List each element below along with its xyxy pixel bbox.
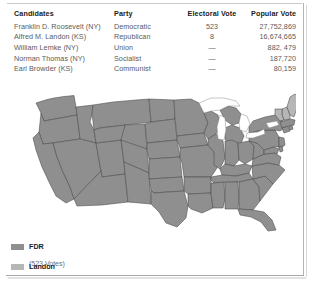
- cell-candidate: Earl Browder (KS): [14, 64, 114, 75]
- panel-top-rule: [6, 3, 302, 4]
- legend-swatch-landon: [11, 264, 24, 270]
- cell-party: Union: [114, 43, 184, 54]
- lake-huron-erie: [239, 114, 250, 132]
- cell-candidate: Franklin D. Roosevelt (NY): [14, 22, 114, 33]
- cell-popular-vote: 882, 479: [240, 43, 296, 54]
- panel-right-rule: [303, 3, 304, 275]
- cell-popular-vote: 27,752,869: [240, 22, 296, 33]
- map-legend: FDR (523 Votes) Landon: [11, 242, 65, 272]
- cell-party: Democratic: [114, 22, 184, 33]
- state-arkansas: [184, 177, 211, 194]
- state-alabama: [225, 182, 239, 209]
- state-ohio: [238, 141, 254, 164]
- legend-label-fdr: FDR: [29, 242, 44, 251]
- cell-popular-vote: 16,674,665: [240, 32, 296, 43]
- cell-popular-vote: 80,159: [240, 64, 296, 75]
- us-electoral-map: [18, 84, 296, 236]
- state-south-dakota: [145, 119, 177, 143]
- election-results-figure: Candidates Party Electoral Vote Popular …: [0, 0, 316, 290]
- state-indiana: [225, 140, 239, 166]
- legend-label-landon: Landon: [29, 262, 55, 271]
- table-row: Earl Browder (KS) Communist — 80,159: [14, 64, 296, 75]
- column-header-popular-vote: Popular Vote: [240, 9, 296, 22]
- table-row: William Lemke (NY) Union — 882, 479: [14, 43, 296, 54]
- state-florida: [238, 209, 276, 231]
- us-map-svg: [18, 84, 296, 236]
- table-header-row: Candidates Party Electoral Vote Popular …: [14, 9, 296, 22]
- cell-popular-vote: 187,720: [240, 54, 296, 65]
- panel-bottom-shadow: [8, 277, 306, 279]
- state-kansas: [149, 157, 182, 179]
- cell-candidate: William Lemke (NY): [14, 43, 114, 54]
- cell-electoral-vote: —: [184, 64, 240, 75]
- cell-candidate: Alfred M. Landon (KS): [14, 32, 114, 43]
- column-header-candidates: Candidates: [14, 9, 114, 22]
- state-louisiana: [188, 193, 213, 213]
- cell-electoral-vote: —: [184, 43, 240, 54]
- cell-electoral-vote: —: [184, 54, 240, 65]
- panel-bottom-rule: [6, 275, 304, 276]
- legend-swatch-fdr: [11, 244, 24, 250]
- panel-left-edge: [6, 3, 7, 275]
- cell-party: Republican: [114, 32, 184, 43]
- cell-electoral-vote: 8: [184, 32, 240, 43]
- state-delaware: [279, 146, 283, 152]
- table-row: Norman Thomas (NY) Socialist — 187,720: [14, 54, 296, 65]
- state-texas: [151, 190, 188, 227]
- cell-party: Socialist: [114, 54, 184, 65]
- cell-electoral-vote: 523: [184, 22, 240, 33]
- column-header-party: Party: [114, 9, 184, 22]
- panel-right-rule-shadow: [306, 5, 307, 277]
- table-row: Alfred M. Landon (KS) Republican 8 16,67…: [14, 32, 296, 43]
- column-header-electoral-vote: Electoral Vote: [184, 9, 240, 22]
- state-north-dakota: [149, 99, 175, 122]
- state-nebraska: [147, 140, 180, 159]
- state-mississippi: [211, 182, 225, 208]
- election-results-table: Candidates Party Electoral Vote Popular …: [14, 9, 296, 75]
- legend-subtext-row: (523 Votes): [11, 252, 65, 261]
- state-oklahoma: [149, 177, 184, 193]
- legend-item-fdr: FDR: [11, 242, 65, 251]
- cell-candidate: Norman Thomas (NY): [14, 54, 114, 65]
- cell-party: Communist: [114, 64, 184, 75]
- state-missouri: [180, 145, 217, 177]
- table-row: Franklin D. Roosevelt (NY) Democratic 52…: [14, 22, 296, 33]
